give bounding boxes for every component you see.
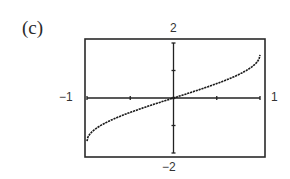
graph-window [0, 0, 290, 179]
